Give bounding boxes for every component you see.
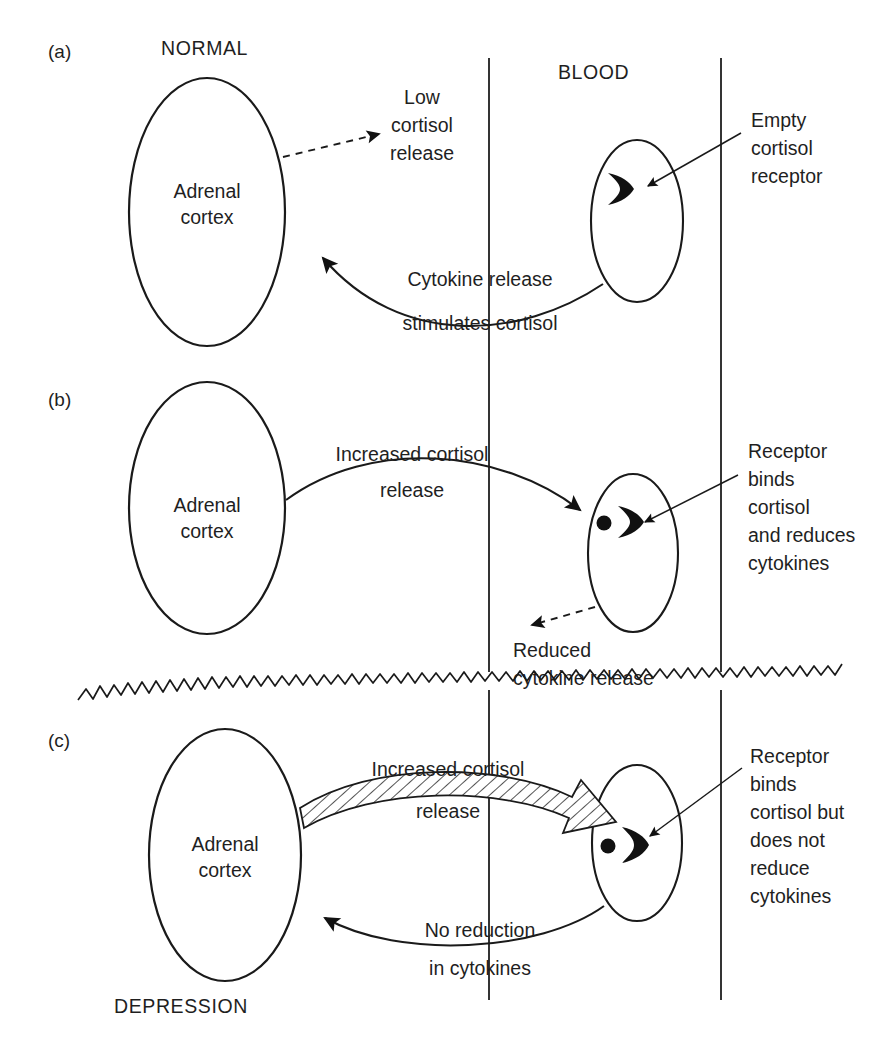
cortex-label-c: cortex <box>198 859 251 881</box>
depression-label: DEPRESSION <box>114 995 248 1017</box>
low-cortisol-release-line2: cortisol <box>391 114 453 136</box>
blood-label: BLOOD <box>558 61 629 83</box>
adrenal-label-c: Adrenal <box>191 833 258 855</box>
panel-c-letter: (c) <box>48 730 70 751</box>
low-cortisol-release-line3: release <box>390 142 454 164</box>
cytokine-release-line2: stimulates cortisol <box>403 312 558 334</box>
empty-receptor-line3: receptor <box>751 165 823 187</box>
increased-cortisol-line1-c: Increased cortisol <box>372 758 525 780</box>
receptor-binds-line4-b: and reduces <box>748 524 856 546</box>
receptor-binds-line2-c: binds <box>750 773 797 795</box>
cytokine-release-line1: Cytokine release <box>407 268 552 290</box>
figure-root: (a) NORMAL BLOOD Adrenal cortex Low cort… <box>0 0 886 1051</box>
increased-cortisol-line1-b: Increased cortisol <box>336 443 489 465</box>
no-reduction-line2-c: in cytokines <box>429 957 531 979</box>
panel-b-letter: (b) <box>48 389 71 410</box>
cortisol-receptor-diagram: (a) NORMAL BLOOD Adrenal cortex Low cort… <box>0 0 886 1051</box>
receptor-binds-line5-b: cytokines <box>748 552 830 574</box>
increased-cortisol-line2-b: release <box>380 479 444 501</box>
receptor-binds-line4-c: does not <box>750 829 825 851</box>
cortisol-dot-icon-c <box>601 839 616 854</box>
no-reduction-line1-c: No reduction <box>425 919 536 941</box>
receptor-binds-line2-b: binds <box>748 468 795 490</box>
increased-cortisol-line2-c: release <box>416 800 480 822</box>
adrenal-label-a: Adrenal <box>173 180 240 202</box>
low-cortisol-release-line1: Low <box>404 86 441 108</box>
normal-label: NORMAL <box>161 37 248 59</box>
receptor-binds-line3-b: cortisol <box>748 496 810 518</box>
empty-receptor-line2: cortisol <box>751 137 813 159</box>
receptor-binds-line5-c: reduce <box>750 857 810 879</box>
reduced-cytokine-line1-b: Reduced <box>513 639 591 661</box>
receptor-binds-line1-b: Receptor <box>748 440 828 462</box>
receptor-binds-line6-c: cytokines <box>750 885 832 907</box>
cortisol-dot-icon-b <box>597 516 612 531</box>
receptor-binds-line1-c: Receptor <box>750 745 830 767</box>
receptor-binds-line3-c: cortisol but <box>750 801 845 823</box>
cortex-label-a: cortex <box>180 206 233 228</box>
panel-a-letter: (a) <box>48 41 71 62</box>
empty-receptor-line1: Empty <box>751 109 807 131</box>
cortex-label-b: cortex <box>180 520 233 542</box>
adrenal-label-b: Adrenal <box>173 494 240 516</box>
